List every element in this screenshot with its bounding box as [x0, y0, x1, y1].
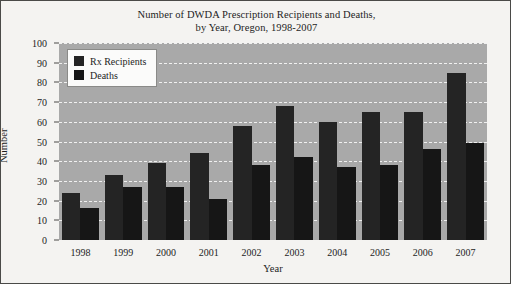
- bar-rx-recipients: [447, 73, 465, 240]
- bar-deaths: [466, 143, 484, 240]
- bar-rx-recipients: [404, 112, 422, 240]
- bar-deaths: [294, 157, 312, 240]
- y-tick-label: 10: [37, 215, 47, 226]
- bar-group: [230, 43, 273, 240]
- bar-deaths: [123, 187, 141, 240]
- x-tick-label: 2000: [145, 240, 188, 262]
- y-tick-label: 60: [37, 116, 47, 127]
- chart-legend: Rx Recipients Deaths: [67, 49, 157, 87]
- bar-deaths: [209, 199, 227, 240]
- bar-rx-recipients: [105, 175, 123, 240]
- x-tick-label: 1998: [59, 240, 102, 262]
- bar-rx-recipients: [190, 153, 208, 240]
- y-tick-label: 40: [37, 156, 47, 167]
- x-axis-label: Year: [59, 263, 487, 274]
- bar-deaths: [337, 167, 355, 240]
- bar-group: [316, 43, 359, 240]
- x-tick-label: 2004: [316, 240, 359, 262]
- bar-deaths: [252, 165, 270, 240]
- bar-group: [273, 43, 316, 240]
- bar-rx-recipients: [233, 126, 251, 240]
- bar-group: [401, 43, 444, 240]
- bar-deaths: [380, 165, 398, 240]
- bar-deaths: [166, 187, 184, 240]
- legend-label-rx-recipients: Rx Recipients: [90, 56, 146, 67]
- chart-figure: Number of DWDA Prescription Recipients a…: [0, 0, 511, 284]
- y-tick-label: 20: [37, 195, 47, 206]
- y-tick-label: 30: [37, 175, 47, 186]
- bar-rx-recipients: [276, 106, 294, 240]
- legend-swatch-rx-recipients: [74, 56, 84, 66]
- x-tick-label: 2005: [359, 240, 402, 262]
- bar-deaths: [423, 149, 441, 240]
- legend-item-deaths: Deaths: [74, 68, 146, 82]
- chart-title-line-1: Number of DWDA Prescription Recipients a…: [1, 8, 511, 21]
- x-tick-label: 2007: [444, 240, 487, 262]
- bar-rx-recipients: [362, 112, 380, 240]
- chart-title-line-2: by Year, Oregon, 1998-2007: [1, 21, 511, 34]
- x-tick-label: 2002: [230, 240, 273, 262]
- x-tick-label: 2003: [273, 240, 316, 262]
- bar-group: [444, 43, 487, 240]
- y-tick-label: 50: [37, 136, 47, 147]
- y-axis-label: Number: [0, 129, 9, 163]
- x-tick-label: 2001: [187, 240, 230, 262]
- legend-swatch-deaths: [74, 70, 84, 80]
- bar-rx-recipients: [62, 193, 80, 240]
- y-tick-label: 100: [32, 38, 47, 49]
- y-tick-label: 80: [37, 77, 47, 88]
- bar-group: [359, 43, 402, 240]
- bar-group: [187, 43, 230, 240]
- bar-deaths: [80, 208, 98, 240]
- legend-label-deaths: Deaths: [90, 70, 118, 81]
- x-axis: 1998199920002001200220032004200520062007: [59, 240, 487, 262]
- bar-rx-recipients: [148, 163, 166, 240]
- y-axis: Number 0102030405060708090100: [1, 43, 59, 240]
- y-tick-label: 90: [37, 57, 47, 68]
- chart-title: Number of DWDA Prescription Recipients a…: [1, 8, 511, 34]
- bar-rx-recipients: [319, 122, 337, 240]
- x-tick-label: 2006: [401, 240, 444, 262]
- x-tick-label: 1999: [102, 240, 145, 262]
- y-tick-label: 70: [37, 97, 47, 108]
- legend-item-rx-recipients: Rx Recipients: [74, 54, 146, 68]
- y-tick-label: 0: [42, 235, 47, 246]
